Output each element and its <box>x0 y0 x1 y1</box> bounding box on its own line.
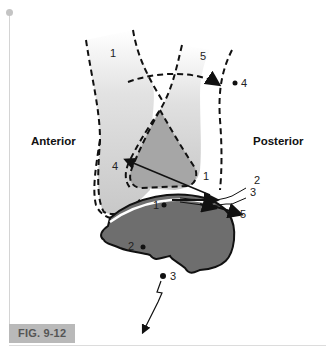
ankle-diagram: 1 5 4 Anterior Posterior 4 1 2 3 5 1 2 3 <box>0 0 326 353</box>
label-talus-1: 1 <box>153 199 159 211</box>
label-point-4: 4 <box>241 77 247 89</box>
point-3-arrow <box>143 273 166 332</box>
label-point-3: 3 <box>170 270 176 282</box>
label-inner-4: 4 <box>112 160 118 172</box>
label-contact-1: 1 <box>203 170 209 182</box>
label-arrow-2: 2 <box>254 174 260 186</box>
label-bone-1: 1 <box>110 47 116 59</box>
point-4-marker <box>233 81 238 86</box>
label-bone-5: 5 <box>200 50 206 62</box>
label-arrow-3: 3 <box>250 186 256 198</box>
figure-caption: FIG. 9-12 <box>9 324 75 343</box>
caption-divider <box>9 345 326 346</box>
label-arrow-5: 5 <box>240 208 246 220</box>
label-posterior: Posterior <box>253 135 304 147</box>
talus-point-1 <box>162 203 167 208</box>
label-anterior: Anterior <box>31 135 76 147</box>
label-talus-2: 2 <box>128 240 134 252</box>
talus-point-2 <box>141 245 146 250</box>
